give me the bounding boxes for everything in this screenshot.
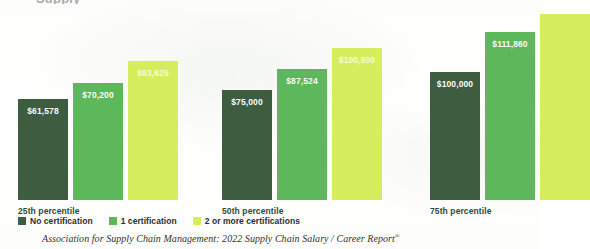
bar-value-label: $70,200 bbox=[73, 90, 123, 100]
bar-75th-2-or-more-certifications[interactable] bbox=[540, 14, 590, 200]
chart-legend: No certification 1 certification 2 or mo… bbox=[18, 216, 300, 226]
bar-value-label: $100,000 bbox=[430, 79, 480, 89]
source-attribution: Association for Supply Chain Management:… bbox=[42, 232, 400, 244]
bar-fill bbox=[540, 14, 590, 200]
bar-value-label: $87,524 bbox=[277, 76, 327, 86]
bar-25th-2-or-more-certifications[interactable]: $83,625 bbox=[128, 61, 178, 200]
bar-fill bbox=[332, 48, 382, 200]
legend-item-2-or-more-certifications[interactable]: 2 or more certifications bbox=[193, 216, 300, 226]
plot-area: $61,578 $70,200 $83,625 $75,000 $87,524 bbox=[0, 14, 540, 200]
legend-swatch-icon bbox=[109, 217, 117, 225]
category-label-75th-percentile: 75th percentile bbox=[430, 206, 492, 216]
bar-group-50th-percentile: $75,000 $87,524 $100,500 bbox=[222, 14, 382, 200]
bar-value-label: $111,860 bbox=[485, 39, 535, 49]
bar-group-25th-percentile: $61,578 $70,200 $83,625 bbox=[18, 14, 178, 200]
bar-fill bbox=[277, 69, 327, 200]
category-label-25th-percentile: 25th percentile bbox=[18, 206, 80, 216]
source-text: Association for Supply Chain Management:… bbox=[42, 233, 395, 244]
category-label-50th-percentile: 50th percentile bbox=[222, 206, 284, 216]
bar-50th-2-or-more-certifications[interactable]: $100,500 bbox=[332, 48, 382, 200]
legend-label: 1 certification bbox=[121, 216, 177, 226]
bar-50th-no-certification[interactable]: $75,000 bbox=[222, 90, 272, 200]
legend-swatch-icon bbox=[18, 217, 26, 225]
bar-group-75th-percentile: $100,000 $111,860 bbox=[430, 14, 590, 200]
bar-fill bbox=[73, 83, 123, 200]
bar-fill bbox=[128, 61, 178, 200]
bar-50th-1-certification[interactable]: $87,524 bbox=[277, 69, 327, 200]
bar-75th-no-certification[interactable]: $100,000 bbox=[430, 72, 480, 200]
bar-value-label: $100,500 bbox=[332, 55, 382, 65]
bar-25th-no-certification[interactable]: $61,578 bbox=[18, 99, 68, 200]
registered-mark-icon: ® bbox=[395, 232, 400, 239]
bar-fill bbox=[485, 32, 535, 200]
bar-value-label: $83,625 bbox=[128, 68, 178, 78]
legend-item-no-certification[interactable]: No certification bbox=[18, 216, 93, 226]
bar-fill bbox=[430, 72, 480, 200]
legend-item-1-certification[interactable]: 1 certification bbox=[109, 216, 177, 226]
legend-swatch-icon bbox=[193, 217, 201, 225]
bar-25th-1-certification[interactable]: $70,200 bbox=[73, 83, 123, 200]
legend-label: 2 or more certifications bbox=[205, 216, 300, 226]
bar-75th-1-certification[interactable]: $111,860 bbox=[485, 32, 535, 200]
legend-label: No certification bbox=[30, 216, 93, 226]
bar-value-label: $75,000 bbox=[222, 97, 272, 107]
page-title-cutoff: Supply bbox=[36, 0, 246, 4]
bar-value-label: $61,578 bbox=[18, 106, 68, 116]
